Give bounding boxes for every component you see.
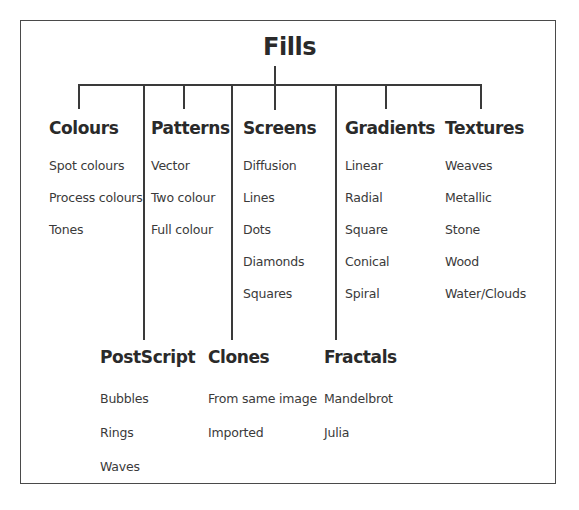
patterns-connector-line [183,84,185,109]
node-item: Process colours [49,182,143,214]
node-fractals: Fractals Mandelbrot Julia [324,346,397,450]
node-item: Weaves [445,150,526,182]
node-item: Square [345,214,435,246]
node-item: From same image [208,382,317,416]
node-gradients: Gradients Linear Radial Square Conical S… [345,117,435,310]
node-item: Spiral [345,278,435,310]
node-item: Stone [445,214,526,246]
node-item: Waves [100,450,195,484]
node-item: Linear [345,150,435,182]
node-heading: Gradients [345,117,435,139]
node-item: Imported [208,416,317,450]
node-patterns: Patterns Vector Two colour Full colour [151,117,230,246]
colours-connector-line [78,84,80,109]
node-heading: Patterns [151,117,230,139]
textures-connector-line [480,84,482,109]
node-item: Water/Clouds [445,278,526,310]
fractals-connector-line [335,84,337,340]
node-heading: Screens [243,117,316,139]
node-heading: Fractals [324,346,397,368]
node-item: Diamonds [243,246,316,278]
root-stem-line [274,66,276,110]
node-clones: Clones From same image Imported [208,346,317,450]
node-item: Radial [345,182,435,214]
node-heading: PostScript [100,346,195,368]
postscript-connector-line [143,84,145,340]
node-item: Julia [324,416,397,450]
node-heading: Textures [445,117,526,139]
node-item: Lines [243,182,316,214]
node-item: Squares [243,278,316,310]
root-node-fills: Fills [0,33,579,61]
node-item: Dots [243,214,316,246]
node-item: Mandelbrot [324,382,397,416]
node-heading: Colours [49,117,143,139]
node-item: Full colour [151,214,230,246]
node-heading: Clones [208,346,317,368]
node-colours: Colours Spot colours Process colours Ton… [49,117,143,246]
node-item: Bubbles [100,382,195,416]
node-item: Spot colours [49,150,143,182]
node-textures: Textures Weaves Metallic Stone Wood Wate… [445,117,526,310]
node-item: Two colour [151,182,230,214]
node-item: Conical [345,246,435,278]
node-item: Diffusion [243,150,316,182]
clones-connector-line [231,84,233,340]
node-postscript: PostScript Bubbles Rings Waves [100,346,195,484]
node-item: Wood [445,246,526,278]
node-item: Metallic [445,182,526,214]
node-item: Rings [100,416,195,450]
main-horizontal-line [78,84,481,86]
gradients-connector-line [385,84,387,109]
node-item: Vector [151,150,230,182]
node-item: Tones [49,214,143,246]
node-screens: Screens Diffusion Lines Dots Diamonds Sq… [243,117,316,310]
